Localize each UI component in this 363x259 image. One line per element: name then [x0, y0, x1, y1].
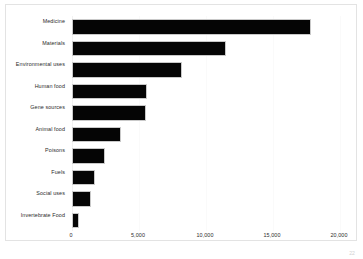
y-axis-label-medicine: Medicine: [0, 19, 65, 24]
x-tick-label-15000: 15,000: [263, 233, 280, 238]
y-axis-label-environmental-uses: Environmental uses: [0, 62, 65, 67]
x-tick-label-20000: 20,000: [330, 233, 347, 238]
y-axis-label-materials: Materials: [0, 41, 65, 46]
y-axis-label-fuels: Fuels: [0, 170, 65, 175]
y-axis-label-invertebrate-food: Invertebrate Food: [0, 213, 65, 218]
y-axis-label-social-uses: Social uses: [0, 191, 65, 196]
x-axis-tick-labels: 05,00010,00015,00020,000: [0, 233, 363, 245]
x-tick-label-10000: 10,000: [196, 233, 213, 238]
x-tick-label-0: 0: [69, 233, 72, 238]
page-number-artifact: 22: [349, 251, 355, 256]
y-axis-label-animal-food: Animal food: [0, 127, 65, 132]
y-axis-category-labels: MedicineMaterialsEnvironmental usesHuman…: [0, 0, 363, 259]
y-axis-label-gene-sources: Gene sources: [0, 105, 65, 110]
y-axis-label-poisons: Poisons: [0, 148, 65, 153]
y-axis-label-human-food: Human food: [0, 84, 65, 89]
x-tick-label-5000: 5,000: [131, 233, 145, 238]
